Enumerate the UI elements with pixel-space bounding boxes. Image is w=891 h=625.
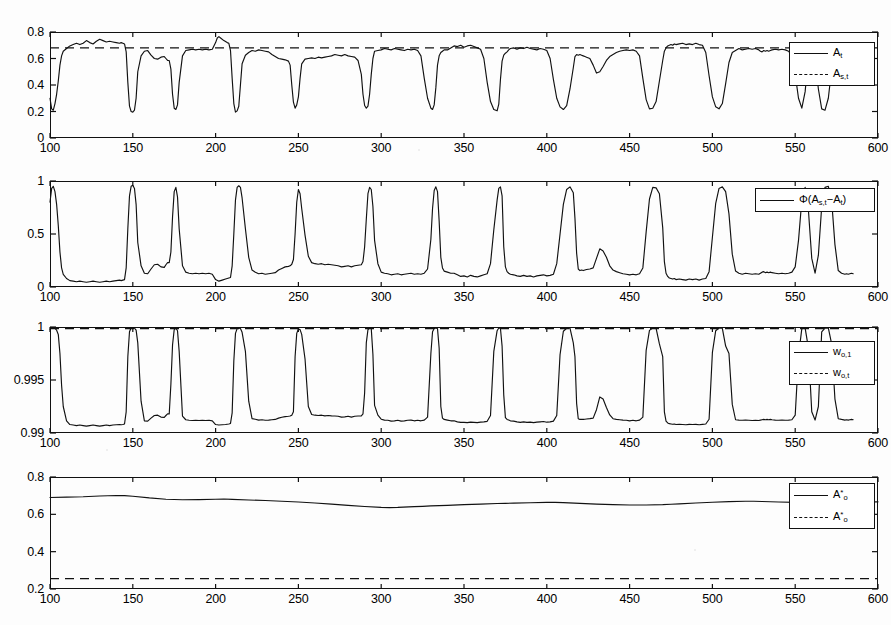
legend-line-solid — [794, 352, 828, 353]
legend-entry-dashed: wo,t — [790, 363, 874, 384]
panel-2-xtick-10: 600 — [856, 290, 891, 304]
panel-1-legend: At As,t — [789, 42, 875, 86]
panel-3-xtick-3: 250 — [276, 436, 320, 450]
panel-1-ytick-2: 0.4 — [2, 78, 44, 92]
legend-label-a-s-t: As,t — [833, 68, 848, 81]
panel-2-xtick-0: 100 — [28, 290, 72, 304]
panel-1-ytick-4: 0.8 — [2, 25, 44, 39]
panel-4-ytick-1: 0.4 — [2, 545, 44, 559]
panel-4-xtick-7: 450 — [608, 592, 652, 606]
panel-4-xtick-6: 400 — [525, 592, 569, 606]
panel-2-xtick-5: 350 — [442, 290, 486, 304]
panel-1-xtick-7: 450 — [608, 141, 652, 155]
panel-2-xtick-3: 250 — [276, 290, 320, 304]
legend-entry-dashed: A*o — [790, 506, 874, 528]
panel-4-xtick-10: 600 — [856, 592, 891, 606]
panel-4-xtick-4: 300 — [359, 592, 403, 606]
panel-3-xtick-8: 500 — [690, 436, 734, 450]
panel-2: 1 0.5 0 Φ(As,t−At) — [0, 155, 891, 310]
legend-label-w-o-1: wo,1 — [833, 346, 851, 359]
panel-2-xtick-1: 150 — [111, 290, 155, 304]
panel-2-xtick-2: 200 — [194, 290, 238, 304]
panel-4-xtick-1: 150 — [111, 592, 155, 606]
legend-line-dashed — [794, 373, 828, 374]
legend-line-dashed — [794, 517, 828, 518]
panel-3-xtick-1: 150 — [111, 436, 155, 450]
panel-1-xtick-9: 550 — [773, 141, 817, 155]
panel-3-xtick-0: 100 — [28, 436, 72, 450]
panel-4-xtick-5: 350 — [442, 592, 486, 606]
panel-4-legend: A*o A*o — [789, 483, 875, 529]
legend-label-a-t: At — [833, 47, 842, 60]
panel-1-ytick-3: 0.6 — [2, 52, 44, 66]
panel-4-ytick-3: 0.8 — [2, 470, 44, 484]
panel-1-xtick-4: 300 — [359, 141, 403, 155]
panel-1-ytick-1: 0.2 — [2, 105, 44, 119]
panel-3-ticks — [50, 327, 878, 433]
panel-2-xtick-4: 300 — [359, 290, 403, 304]
panel-1-xtick-5: 350 — [442, 141, 486, 155]
legend-line-solid — [794, 495, 828, 496]
panel-1-xtick-2: 200 — [194, 141, 238, 155]
panel-3-xtick-9: 550 — [773, 436, 817, 450]
legend-entry-dashed: As,t — [790, 64, 874, 85]
panel-2-xtick-6: 400 — [525, 290, 569, 304]
panel-1-xtick-10: 600 — [856, 141, 891, 155]
legend-entry-solid: wo,1 — [790, 342, 874, 363]
panel-4-ticks — [50, 477, 878, 589]
panel-2-legend: Φ(As,t−At) — [755, 188, 875, 212]
panel-3-xtick-6: 400 — [525, 436, 569, 450]
panel-1-xtick-1: 150 — [111, 141, 155, 155]
legend-label-a-star-o-solid: A*o — [833, 489, 848, 502]
legend-line-solid — [760, 200, 794, 201]
panel-1-xtick-3: 250 — [276, 141, 320, 155]
panel-3-legend: wo,1 wo,t — [789, 341, 875, 385]
panel-3-ytick-2: 1 — [2, 320, 44, 334]
panel-3-xtick-7: 450 — [608, 436, 652, 450]
panel-4-xtick-0: 100 — [28, 592, 72, 606]
panel-4-xtick-8: 500 — [690, 592, 734, 606]
panel-2-xtick-8: 500 — [690, 290, 734, 304]
figure-canvas: 0.8 0.6 0.4 0.2 0 At As,t 1 0.5 0 Φ(As,t… — [0, 0, 891, 625]
legend-entry-solid: At — [790, 43, 874, 64]
panel-2-ticks — [50, 181, 878, 287]
panel-1-xtick-0: 100 — [28, 141, 72, 155]
panel-3-ytick-1: 0.995 — [2, 373, 44, 387]
panel-2-xtick-9: 550 — [773, 290, 817, 304]
panel-2-ytick-2: 1 — [2, 174, 44, 188]
panel-4-xtick-2: 200 — [194, 592, 238, 606]
panel-2-xtick-7: 450 — [608, 290, 652, 304]
panel-1-xtick-6: 400 — [525, 141, 569, 155]
legend-line-solid — [794, 53, 828, 54]
legend-label-a-star-o-dashed: A*o — [833, 511, 848, 524]
panel-1-xtick-8: 500 — [690, 141, 734, 155]
panel-3-xtick-4: 300 — [359, 436, 403, 450]
legend-label-phi: Φ(As,t−At) — [799, 194, 846, 207]
panel-4-xtick-3: 250 — [276, 592, 320, 606]
legend-line-dashed — [794, 74, 828, 75]
panel-4-ytick-2: 0.6 — [2, 507, 44, 521]
legend-entry-solid: Φ(As,t−At) — [756, 189, 874, 211]
panel-3-xtick-2: 200 — [194, 436, 238, 450]
panel-2-ytick-1: 0.5 — [2, 227, 44, 241]
panel-3-xtick-5: 350 — [442, 436, 486, 450]
panel-1-ticks — [50, 32, 878, 138]
legend-entry-solid: A*o — [790, 484, 874, 506]
panel-4-xtick-9: 550 — [773, 592, 817, 606]
legend-label-w-o-t: wo,t — [833, 367, 849, 380]
panel-3-xtick-10: 600 — [856, 436, 891, 450]
